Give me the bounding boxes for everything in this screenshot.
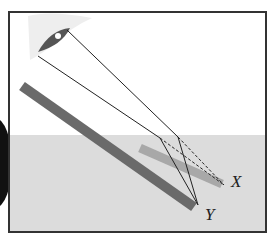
eye-icon [28, 13, 92, 60]
refraction-diagram [0, 0, 279, 248]
label-real-end: Y [205, 205, 214, 225]
label-apparent-end: X [231, 172, 241, 192]
water-region [9, 135, 266, 232]
